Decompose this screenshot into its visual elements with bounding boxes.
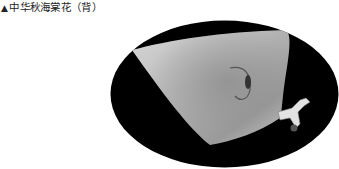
triangle-marker-icon: ▲	[1, 3, 8, 13]
flower-photo	[110, 20, 339, 168]
caption-text: 中华秋海棠花（背）	[9, 1, 102, 13]
figure-caption: ▲中华秋海棠花（背）	[1, 1, 102, 15]
